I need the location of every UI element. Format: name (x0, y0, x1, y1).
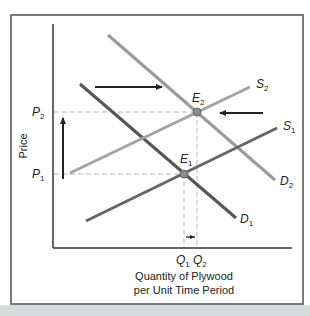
figure-frame (11, 15, 303, 304)
supply-demand-diagram: P2 P1 Q1 Q2 S2 S1 D2 D1 E2 E1 Price Quan… (0, 0, 310, 316)
x-axis-title-line1: Quantity of Plywood (135, 270, 233, 282)
d1-label: D1 (240, 212, 254, 228)
e2-label: E2 (192, 91, 205, 107)
equilibrium-point-e1 (180, 170, 188, 178)
q2-label: Q2 (193, 253, 207, 269)
p1-label: P1 (32, 167, 45, 183)
s2-label: S2 (256, 77, 269, 93)
q1-label: Q1 (176, 253, 190, 269)
e1-label: E1 (180, 152, 193, 168)
p2-label: P2 (32, 105, 45, 121)
x-axis-title-line2: per Unit Time Period (134, 284, 234, 296)
s1-label: S1 (283, 119, 296, 135)
equilibrium-point-e2 (193, 108, 201, 116)
y-axis-title: Price (17, 133, 29, 158)
d2-label: D2 (280, 174, 294, 190)
